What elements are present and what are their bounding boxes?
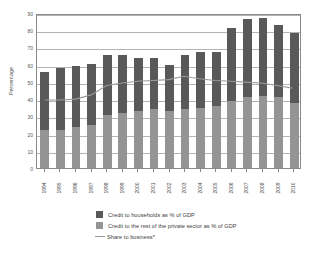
x-axis-tick-1997 — [91, 169, 92, 172]
x-axis-tick-2000 — [137, 169, 138, 172]
x-axis-tick-2004 — [200, 169, 201, 172]
x-axis-tick-1999 — [122, 169, 123, 172]
plot-area: Percentage 0102030405060708090 199419951… — [0, 0, 310, 210]
y-axis-tick-10: 10 — [27, 149, 33, 155]
legend-item-1: Credit to the rest of the private sector… — [96, 220, 310, 231]
x-axis-label-1998: 1998 — [103, 177, 109, 199]
legend-swatch-icon-0 — [96, 211, 103, 218]
x-axis-label-2001: 2001 — [150, 177, 156, 199]
legend-item-0: Credit to households as % of GDP — [96, 209, 310, 220]
x-axis-tick-2010 — [293, 169, 294, 172]
x-axis-label-1999: 1999 — [119, 177, 125, 199]
x-axis-label-1994: 1994 — [41, 177, 47, 199]
legend-label-1: Credit to the rest of the private sector… — [108, 223, 237, 229]
share-to-business-line — [37, 15, 300, 168]
legend-swatch-icon-1 — [96, 222, 103, 229]
x-axis-tick-2007 — [246, 169, 247, 172]
x-axis-tick-2009 — [278, 169, 279, 172]
chart-legend: Credit to households as % of GDPCredit t… — [96, 209, 310, 242]
x-axis-label-2003: 2003 — [181, 177, 187, 199]
y-axis-tick-80: 80 — [27, 28, 33, 34]
legend-label-0: Credit to households as % of GDP — [108, 212, 195, 218]
y-axis-tick-60: 60 — [27, 63, 33, 69]
x-axis-tick-1994 — [44, 169, 45, 172]
legend-label-2: Share to business* — [107, 234, 155, 240]
x-axis-tick-2003 — [184, 169, 185, 172]
y-axis-tick-30: 30 — [27, 114, 33, 120]
x-axis-label-2010: 2010 — [290, 177, 296, 199]
x-axis-label-2007: 2007 — [243, 177, 249, 199]
x-axis-label-2009: 2009 — [275, 177, 281, 199]
line-series-layer — [37, 15, 300, 168]
y-axis-tick-20: 20 — [27, 132, 33, 138]
x-axis-labels: 1994199519961997199819992000200120022003… — [36, 169, 301, 205]
x-axis-label-1997: 1997 — [88, 177, 94, 199]
y-axis-title: Percentage — [8, 41, 14, 121]
legend-line-icon-2 — [95, 236, 105, 237]
x-axis-tick-1998 — [106, 169, 107, 172]
x-axis-tick-2001 — [153, 169, 154, 172]
x-axis-label-2005: 2005 — [212, 177, 218, 199]
x-axis-tick-1995 — [59, 169, 60, 172]
y-axis-tick-0: 0 — [30, 166, 33, 172]
y-axis-tick-70: 70 — [27, 45, 33, 51]
y-axis-tick-90: 90 — [27, 11, 33, 17]
x-axis-label-2000: 2000 — [134, 177, 140, 199]
y-axis-tick-labels: 0102030405060708090 — [18, 14, 34, 169]
y-axis-tick-40: 40 — [27, 97, 33, 103]
x-axis-tick-2002 — [169, 169, 170, 172]
x-axis-label-1995: 1995 — [56, 177, 62, 199]
x-axis-tick-2006 — [231, 169, 232, 172]
x-axis-label-2008: 2008 — [259, 177, 265, 199]
x-axis-label-2004: 2004 — [197, 177, 203, 199]
x-axis-tick-2005 — [215, 169, 216, 172]
x-axis-label-2002: 2002 — [166, 177, 172, 199]
x-axis-label-1996: 1996 — [72, 177, 78, 199]
y-axis-tick-50: 50 — [27, 80, 33, 86]
x-axis-label-2006: 2006 — [228, 177, 234, 199]
line-path-share-to-business — [45, 76, 293, 100]
x-axis-tick-1996 — [75, 169, 76, 172]
credit-to-gdp-stacked-bar-chart: Percentage 0102030405060708090 199419951… — [0, 0, 310, 259]
legend-item-2: Share to business* — [96, 231, 310, 242]
x-axis-tick-2008 — [262, 169, 263, 172]
plot-frame — [36, 14, 301, 169]
